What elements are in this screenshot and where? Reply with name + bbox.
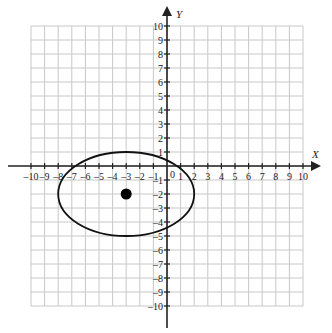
y-tick-label: –6 [152, 245, 163, 256]
x-tick-label: –6 [79, 171, 90, 182]
x-tick-label: 9 [287, 171, 292, 182]
x-tick-label: –9 [39, 171, 50, 182]
x-tick-label: –3 [120, 171, 131, 182]
y-tick-label: 6 [158, 77, 163, 88]
origin-label: 0 [170, 169, 175, 180]
y-tick-label: 8 [158, 49, 163, 60]
x-axis-label: X [311, 148, 320, 160]
y-axis-arrow-icon [162, 6, 172, 16]
x-tick-label: 5 [233, 171, 238, 182]
y-tick-label: –10 [147, 301, 163, 312]
y-tick-label: 3 [158, 119, 163, 130]
x-tick-label: 4 [219, 171, 224, 182]
x-tick-label: 8 [273, 171, 278, 182]
x-axis-arrow-icon [311, 161, 321, 171]
x-tick-label: 7 [260, 171, 265, 182]
y-axis-label: Y [176, 8, 184, 20]
coordinate-plane-chart: –10–9–8–7–6–5–4–3–2–112345678910–10–9–8–… [0, 0, 332, 333]
y-tick-label: –3 [152, 203, 163, 214]
y-tick-label: 4 [158, 105, 163, 116]
x-tick-label: –5 [93, 171, 104, 182]
y-tick-label: 1 [158, 147, 163, 158]
data-points [121, 189, 132, 200]
center-point [121, 189, 132, 200]
y-tick-label: 2 [158, 133, 163, 144]
y-tick-label: –4 [152, 217, 163, 228]
y-tick-label: 10 [153, 21, 163, 32]
x-tick-label: 1 [178, 171, 183, 182]
x-tick-label: –2 [134, 171, 145, 182]
x-tick-label: 6 [246, 171, 251, 182]
x-tick-label: 10 [298, 171, 308, 182]
y-tick-label: –2 [152, 189, 163, 200]
y-tick-label: 9 [158, 35, 163, 46]
y-tick-label: –8 [152, 273, 163, 284]
x-tick-label: –4 [107, 171, 118, 182]
x-tick-label: –10 [23, 171, 39, 182]
y-tick-label: –7 [152, 259, 163, 270]
y-tick-label: 5 [158, 91, 163, 102]
y-tick-label: –9 [152, 287, 163, 298]
x-tick-label: 3 [205, 171, 210, 182]
x-tick-label: 2 [192, 171, 197, 182]
y-tick-label: 7 [158, 63, 163, 74]
y-tick-label: –1 [152, 175, 163, 186]
